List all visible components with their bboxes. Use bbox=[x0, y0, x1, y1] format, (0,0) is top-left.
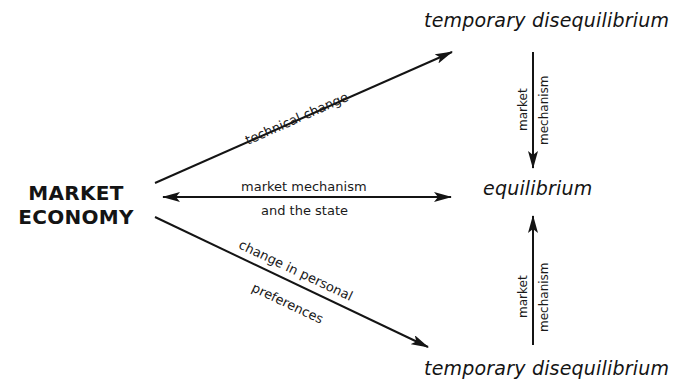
personal-preferences-arrow bbox=[155, 217, 428, 347]
market-economy-line1: MARKET bbox=[8, 181, 144, 205]
market-economy-diagram: MARKET ECONOMY temporary disequilibrium … bbox=[0, 0, 678, 386]
equilibrium-node: equilibrium bbox=[483, 177, 593, 199]
bottom-mechanism-label: mechanism bbox=[537, 262, 551, 332]
market-mechanism-label: market mechanism bbox=[241, 179, 367, 194]
market-economy-line2: ECONOMY bbox=[8, 205, 144, 229]
top-mechanism-label: mechanism bbox=[537, 75, 551, 145]
top-disequilibrium-node: temporary disequilibrium bbox=[424, 9, 669, 31]
bottom-market-label: market bbox=[516, 275, 530, 318]
bottom-disequilibrium-node: temporary disequilibrium bbox=[424, 357, 669, 379]
market-economy-node: MARKET ECONOMY bbox=[8, 181, 144, 229]
and-the-state-label: and the state bbox=[261, 203, 348, 218]
top-market-label: market bbox=[516, 88, 530, 131]
